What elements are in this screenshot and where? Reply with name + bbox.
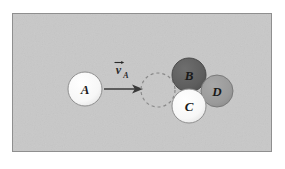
ball-a-label: A [80, 82, 90, 97]
ball-c: C [172, 89, 206, 123]
velocity-subscript: A [122, 71, 129, 80]
velocity-symbol: v [116, 63, 122, 77]
ball-d-label: D [211, 84, 222, 99]
collision-diagram: v A B D C A [0, 0, 285, 169]
panel-background [12, 13, 272, 152]
ball-c-label: C [185, 99, 194, 114]
ball-b-label: B [184, 68, 194, 83]
ball-b: B [172, 58, 206, 92]
figure-container: v A B D C A [0, 0, 285, 169]
ball-a: A [68, 72, 102, 106]
diagram-panel [12, 13, 272, 152]
